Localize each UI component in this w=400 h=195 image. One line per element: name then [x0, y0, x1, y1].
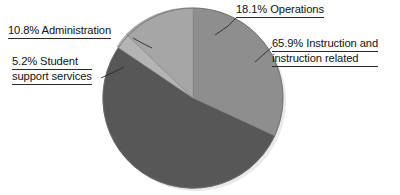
pie-label-student-support-line1: 5.2% Student — [12, 55, 92, 70]
pie-label-student-support: 5.2% Student support services — [12, 55, 92, 85]
pie-label-student-support-line2: support services — [12, 70, 92, 85]
pie-label-administration-line1: 10.8% Administration — [8, 24, 111, 39]
pie-label-instruction-line2: instruction related — [272, 52, 378, 67]
pie-chart-figure: 18.1% Operations 65.9% Instruction and i… — [0, 0, 400, 195]
pie-label-instruction-line1: 65.9% Instruction and — [272, 37, 378, 52]
pie-label-administration: 10.8% Administration — [8, 24, 111, 39]
pie-label-instruction: 65.9% Instruction and instruction relate… — [272, 37, 378, 67]
pie-label-operations: 18.1% Operations — [236, 3, 324, 18]
pie-label-operations-line1: 18.1% Operations — [236, 3, 324, 18]
